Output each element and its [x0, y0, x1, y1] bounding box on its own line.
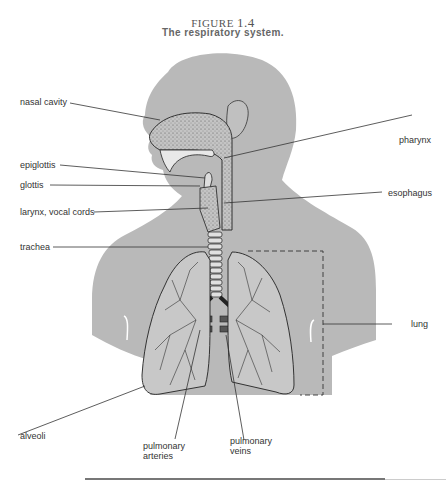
label-pulmonary-arteries-line1: pulmonary — [143, 441, 185, 451]
label-pulmonary-arteries: pulmonary arteries — [143, 441, 185, 461]
label-pulmonary-veins-line2: veins — [230, 446, 272, 456]
label-lung: lung — [411, 319, 428, 329]
bottom-rule — [85, 478, 385, 480]
label-trachea: trachea — [20, 242, 50, 252]
label-epiglottis: epiglottis — [20, 160, 56, 170]
label-pulmonary-veins-line1: pulmonary — [230, 436, 272, 446]
bottom-rule-light — [385, 479, 446, 480]
epiglottis-shape — [204, 173, 212, 188]
label-nasal-cavity: nasal cavity — [20, 97, 67, 107]
label-esophagus: esophagus — [388, 188, 432, 198]
label-alveoli: alveoli — [20, 431, 46, 441]
label-pulmonary-arteries-line2: arteries — [143, 451, 185, 461]
respiratory-diagram — [0, 0, 446, 486]
label-glottis: glottis — [20, 180, 44, 190]
label-pharynx: pharynx — [399, 135, 431, 145]
label-larynx: larynx, vocal cords — [20, 207, 95, 217]
label-pulmonary-veins: pulmonary veins — [230, 436, 272, 456]
